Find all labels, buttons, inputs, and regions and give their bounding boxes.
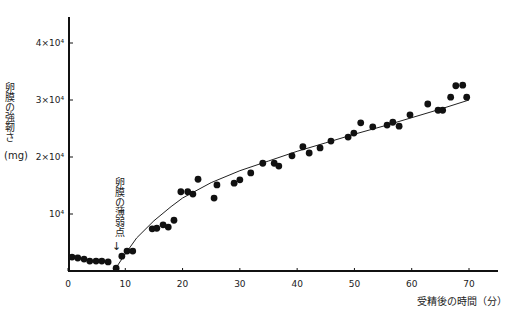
data-point xyxy=(86,258,93,265)
data-point xyxy=(369,123,376,130)
annotation-weak-point: 卵膜の薄弱点 xyxy=(112,177,124,237)
data-point xyxy=(459,82,466,89)
data-point xyxy=(317,144,324,151)
data-point xyxy=(171,217,178,224)
x-tick-label: 60 xyxy=(406,279,418,289)
y-tick-label: 10⁴ xyxy=(49,209,64,219)
data-point xyxy=(211,195,218,202)
data-point xyxy=(424,101,431,108)
y-unit-text: mg xyxy=(8,150,24,161)
y-axis-title: 卵膜の強靭さ xyxy=(2,82,14,142)
y-tick-label: 4×10⁴ xyxy=(36,38,65,48)
data-point xyxy=(289,152,296,159)
data-point xyxy=(447,94,454,101)
data-point xyxy=(177,188,184,195)
data-point xyxy=(236,176,243,183)
data-point xyxy=(247,170,254,177)
y-tick-label: 3×10⁴ xyxy=(36,95,65,105)
data-point xyxy=(118,253,125,260)
data-point xyxy=(259,160,266,167)
x-tick-label: 30 xyxy=(234,279,246,289)
data-point xyxy=(153,225,160,232)
data-point xyxy=(69,254,76,261)
data-point xyxy=(105,258,112,265)
data-point xyxy=(195,176,202,183)
data-point xyxy=(275,163,282,170)
data-point xyxy=(231,180,238,187)
chart-canvas: 010203040506070 10⁴2×10⁴3×10⁴4×10⁴ xyxy=(0,0,515,314)
data-point xyxy=(350,130,357,137)
y-ticks: 10⁴2×10⁴3×10⁴4×10⁴ xyxy=(36,38,73,219)
data-point xyxy=(98,258,105,265)
data-point xyxy=(357,119,364,126)
data-point xyxy=(396,123,403,130)
data-point xyxy=(439,107,446,114)
y-axis-unit: (mg) xyxy=(4,150,28,161)
x-axis-title: 受精後の時間（分） xyxy=(417,293,507,308)
data-point xyxy=(306,150,313,157)
data-point xyxy=(129,248,136,255)
x-tick-label: 20 xyxy=(177,279,189,289)
data-point xyxy=(328,138,335,145)
x-tick-label: 10 xyxy=(120,279,132,289)
data-point xyxy=(299,143,306,150)
down-arrow-icon: ↓ xyxy=(112,240,121,253)
fit-curve xyxy=(115,100,469,269)
data-point xyxy=(452,82,459,89)
data-point xyxy=(189,191,196,198)
x-tick-label: 0 xyxy=(65,279,71,289)
data-point xyxy=(214,182,221,189)
data-point xyxy=(165,224,172,231)
axes xyxy=(68,17,498,271)
x-tick-label: 40 xyxy=(291,279,303,289)
data-point xyxy=(463,94,470,101)
data-point xyxy=(407,111,414,118)
data-point xyxy=(389,119,396,126)
data-point xyxy=(113,265,120,272)
data-point xyxy=(74,255,81,262)
y-tick-label: 2×10⁴ xyxy=(36,152,65,162)
data-point xyxy=(345,134,352,141)
x-tick-label: 70 xyxy=(463,279,475,289)
data-points xyxy=(69,82,470,272)
x-tick-label: 50 xyxy=(349,279,361,289)
